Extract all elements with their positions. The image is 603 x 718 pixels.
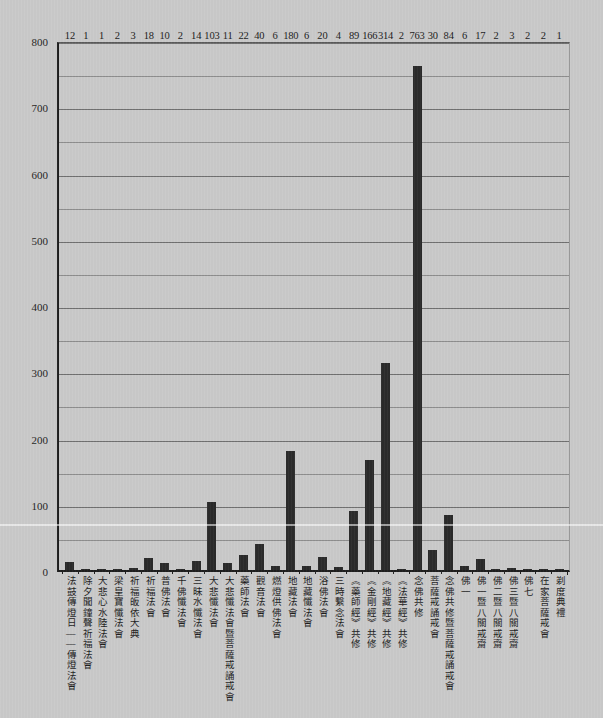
x-category-label: 地藏懺法會 <box>302 576 312 629</box>
bar-rect[interactable] <box>428 550 437 570</box>
bar-rect[interactable] <box>413 66 422 570</box>
bar-rect[interactable] <box>318 557 327 570</box>
x-category-label: 佛七 <box>523 576 533 597</box>
x-label-slot: 佛一 <box>457 576 473 716</box>
bar-rect[interactable] <box>65 562 74 570</box>
x-category-label: 三時繫念法會 <box>333 576 343 639</box>
x-tick <box>551 570 567 575</box>
bar-item[interactable]: 314 <box>378 42 394 570</box>
bar-item[interactable]: 12 <box>62 42 78 570</box>
x-tick <box>504 570 520 575</box>
bar-item[interactable]: 180 <box>283 42 299 570</box>
x-axis-end-cap <box>567 570 568 575</box>
bar-item[interactable]: 2 <box>520 42 536 570</box>
bar-item[interactable]: 1 <box>94 42 110 570</box>
bar-item[interactable]: 6 <box>267 42 283 570</box>
bar-value-label: 1 <box>557 30 562 41</box>
x-category-label: 法鼓傳燈日——傳燈法會 <box>65 576 75 692</box>
bar-item[interactable]: 2 <box>109 42 125 570</box>
bar-rect[interactable] <box>349 511 358 570</box>
bar-item[interactable]: 40 <box>251 42 267 570</box>
x-label-slot: 大悲懺法會 <box>204 576 220 716</box>
bar-item[interactable]: 20 <box>315 42 331 570</box>
x-tick <box>520 570 536 575</box>
bar-item[interactable]: 11 <box>220 42 236 570</box>
bar-item[interactable]: 84 <box>441 42 457 570</box>
bar-value-label: 10 <box>160 30 170 41</box>
x-category-label: 大悲懺法會 <box>207 576 217 629</box>
x-label-slot: 在家菩薩戒會 <box>535 576 551 716</box>
x-tick <box>94 570 110 575</box>
x-label-slot: 藥師法會 <box>236 576 252 716</box>
x-category-label: 梁皇寶懺法會 <box>112 576 122 639</box>
x-label-slot: 祈福法會 <box>141 576 157 716</box>
bar-value-label: 103 <box>204 30 219 41</box>
bar-value-label: 166 <box>362 30 377 41</box>
bar-item[interactable]: 6 <box>299 42 315 570</box>
bar-rect[interactable] <box>444 515 453 570</box>
bar-item[interactable]: 89 <box>346 42 362 570</box>
x-tick <box>330 570 346 575</box>
bar-item[interactable]: 2 <box>535 42 551 570</box>
x-category-label: 千佛懺法會 <box>176 576 186 629</box>
x-label-slot: 除夕聞鐘聲祈福法會 <box>78 576 94 716</box>
x-tick <box>204 570 220 575</box>
bar-value-label: 2 <box>493 30 498 41</box>
bar-value-label: 6 <box>273 30 278 41</box>
x-tick <box>299 570 315 575</box>
bar-item[interactable]: 30 <box>425 42 441 570</box>
bar-rect[interactable] <box>365 460 374 570</box>
bar-item[interactable]: 763 <box>409 42 425 570</box>
bar-rect[interactable] <box>476 559 485 570</box>
bar-item[interactable]: 6 <box>457 42 473 570</box>
bar-value-label: 18 <box>144 30 154 41</box>
bar-item[interactable]: 2 <box>393 42 409 570</box>
bar-rect[interactable] <box>255 544 264 570</box>
bar-item[interactable]: 1 <box>551 42 567 570</box>
x-label-slot: 佛三暨八關戒齋 <box>504 576 520 716</box>
bar-rect[interactable] <box>239 555 248 570</box>
bar-rect[interactable] <box>160 563 169 570</box>
bar-item[interactable]: 103 <box>204 42 220 570</box>
bar-rect[interactable] <box>144 558 153 570</box>
bar-value-label: 3 <box>130 30 135 41</box>
x-label-slot: 梁皇寶懺法會 <box>109 576 125 716</box>
x-tick <box>251 570 267 575</box>
x-category-label: 觀音法會 <box>254 576 264 618</box>
x-tick <box>362 570 378 575</box>
bar-value-label: 2 <box>525 30 530 41</box>
y-tick-label: 100 <box>32 500 49 512</box>
x-label-slot: 佛二暨八關戒齋 <box>488 576 504 716</box>
bar-value-label: 20 <box>317 30 327 41</box>
bar-item[interactable]: 10 <box>157 42 173 570</box>
bar-item[interactable]: 3 <box>125 42 141 570</box>
x-category-label: 三昧水懺法會 <box>191 576 201 639</box>
bar-item[interactable]: 1 <box>78 42 94 570</box>
x-tick <box>78 570 94 575</box>
x-category-label: 《金剛經》共修 <box>365 576 375 650</box>
x-category-label: 浴佛法會 <box>318 576 328 618</box>
bar-value-label: 11 <box>223 30 233 41</box>
y-tick-label: 300 <box>32 367 49 379</box>
bar-item[interactable]: 22 <box>236 42 252 570</box>
bar-item[interactable]: 3 <box>504 42 520 570</box>
bar-rect[interactable] <box>192 561 201 570</box>
x-axis-category-labels: 法鼓傳燈日——傳燈法會除夕聞鐘聲祈福法會大悲心水陸法會梁皇寶懺法會祈福皈依大典祈… <box>59 576 570 716</box>
bar-rect[interactable] <box>223 563 232 570</box>
bar-item[interactable]: 14 <box>188 42 204 570</box>
x-tick <box>283 570 299 575</box>
x-tick <box>488 570 504 575</box>
bar-rect[interactable] <box>286 451 295 570</box>
bar-item[interactable]: 166 <box>362 42 378 570</box>
bar-item[interactable]: 2 <box>488 42 504 570</box>
bar-item[interactable]: 2 <box>172 42 188 570</box>
bar-value-label: 89 <box>349 30 359 41</box>
bar-item[interactable]: 4 <box>330 42 346 570</box>
bar-item[interactable]: 18 <box>141 42 157 570</box>
bar-value-label: 2 <box>541 30 546 41</box>
bar-item[interactable]: 17 <box>472 42 488 570</box>
bar-rect[interactable] <box>207 502 216 570</box>
bar-value-label: 14 <box>191 30 201 41</box>
x-label-slot: 祈福皈依大典 <box>125 576 141 716</box>
bar-rect[interactable] <box>381 363 390 570</box>
